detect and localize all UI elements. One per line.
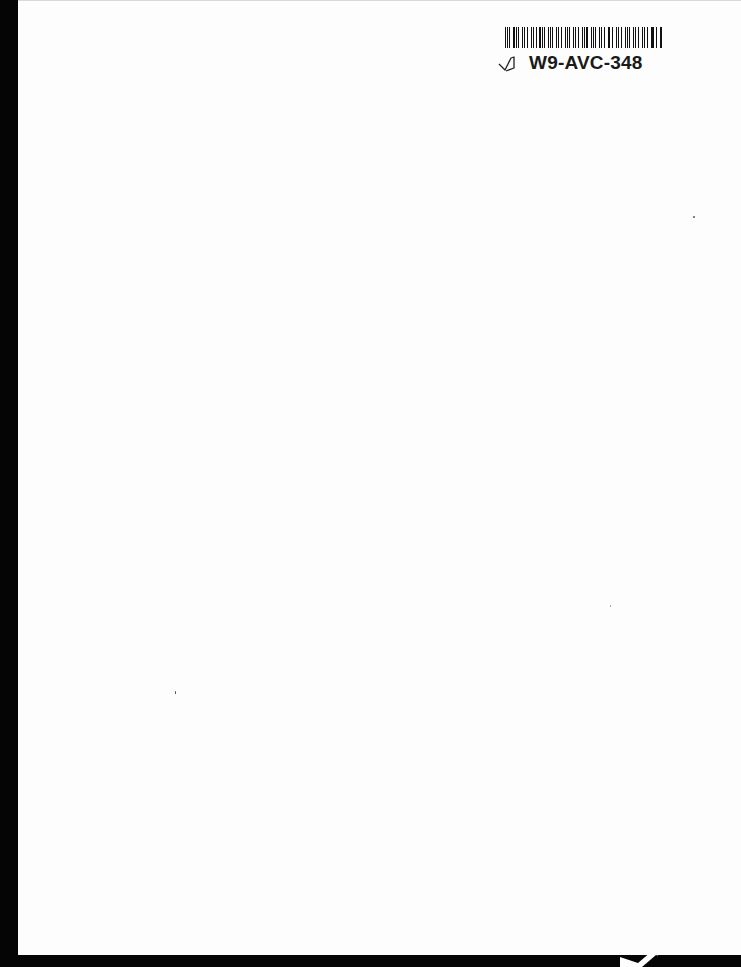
pencil-check-mark-icon [497, 54, 517, 72]
dust-speck [610, 605, 611, 607]
barcode-bar [524, 27, 525, 48]
barcode-sticker: W9-AVC-348 [497, 27, 667, 74]
barcode-bar [561, 27, 562, 48]
barcode-bar [656, 27, 657, 48]
barcode-bar [522, 27, 523, 48]
barcode-bar [644, 27, 645, 48]
barcode-bar [556, 27, 557, 48]
barcode-bar [533, 27, 534, 48]
barcode-bar [539, 27, 540, 48]
barcode-bar [633, 27, 634, 48]
barcode-bar [618, 27, 619, 48]
barcode-bar [601, 27, 602, 48]
barcode-bar [599, 27, 600, 48]
barcode-bar [544, 27, 545, 48]
dust-speck [175, 691, 176, 694]
barcode-bar [604, 27, 605, 48]
scan-border-left [0, 0, 18, 967]
barcode-bar [629, 27, 630, 48]
dust-speck [693, 216, 695, 218]
barcode-bar [647, 27, 648, 48]
blank-page [18, 0, 741, 956]
barcode-bar [661, 27, 662, 48]
barcode-bar [625, 27, 626, 48]
barcode-bar [586, 27, 587, 48]
barcode-bar [638, 27, 639, 48]
barcode-bar [616, 27, 617, 48]
barcode-bar [565, 27, 566, 48]
barcode-bar [513, 27, 514, 48]
barcode-bar [505, 27, 506, 48]
barcode-bar [575, 27, 576, 48]
torn-corner-mark [620, 945, 670, 967]
barcode [505, 27, 664, 48]
barcode-code-row: W9-AVC-348 [497, 52, 667, 74]
barcode-bar [531, 27, 532, 48]
barcode-bar [591, 27, 592, 48]
barcode-bar [509, 27, 510, 48]
barcode-bar [573, 27, 574, 48]
barcode-bar [652, 27, 653, 48]
barcode-code-text: W9-AVC-348 [529, 52, 643, 74]
barcode-bar [609, 27, 610, 48]
barcode-bar [582, 27, 583, 48]
barcode-bar [552, 27, 553, 48]
